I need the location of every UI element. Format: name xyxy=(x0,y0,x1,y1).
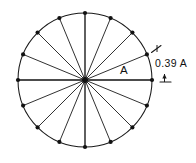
vertex-dot xyxy=(109,140,113,144)
figure-container: A 0.39 A xyxy=(0,0,196,163)
dimension-upper-tick xyxy=(152,45,162,53)
radius-label: A xyxy=(120,64,128,76)
vertex-dot xyxy=(83,145,87,149)
vertex-dot xyxy=(145,52,149,56)
vertex-dot xyxy=(130,30,134,34)
dimension-lower-tick xyxy=(160,74,171,82)
spoke-225deg xyxy=(38,80,85,127)
vertex-dot xyxy=(57,140,61,144)
center-point xyxy=(82,77,88,83)
vertex-dot xyxy=(145,104,149,108)
vertex-dot xyxy=(21,52,25,56)
lower-tick-arrowhead xyxy=(162,74,166,79)
vertex-dot xyxy=(83,11,87,15)
spoke-315deg xyxy=(85,80,132,127)
vertex-dot xyxy=(16,78,20,82)
vertex-dot xyxy=(150,78,154,82)
vertex-dot xyxy=(36,30,40,34)
upper-tick-slash xyxy=(152,46,162,53)
vertex-dot xyxy=(21,104,25,108)
spoke-diagram-svg: A 0.39 A xyxy=(0,0,196,163)
vertex-dot xyxy=(109,16,113,20)
spoke-135deg xyxy=(38,33,85,80)
vertex-dot xyxy=(36,125,40,129)
vertex-dot xyxy=(130,125,134,129)
vertex-dot xyxy=(57,16,61,20)
dimension-label: 0.39 A xyxy=(155,57,187,69)
